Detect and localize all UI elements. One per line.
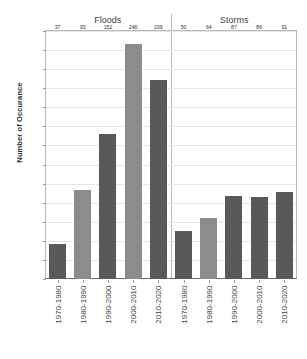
bar-value-label: 91 bbox=[281, 24, 287, 31]
bar-value-label: 246 bbox=[129, 24, 138, 31]
x-tick-mark bbox=[209, 280, 210, 283]
bar-value-label: 87 bbox=[231, 24, 237, 31]
x-tick-mark bbox=[133, 280, 134, 283]
bar-slot: 246 bbox=[125, 31, 142, 279]
bar-value-label: 64 bbox=[206, 24, 212, 31]
x-tick-label: 1970-1980 bbox=[53, 286, 62, 344]
bar[interactable]: 93 bbox=[74, 190, 91, 279]
x-tick-label: 1980-1990 bbox=[78, 286, 87, 344]
x-tick-mark bbox=[259, 280, 260, 283]
bar[interactable]: 209 bbox=[150, 80, 167, 279]
bar-slot: 87 bbox=[225, 31, 242, 279]
bar[interactable]: 37 bbox=[49, 244, 66, 279]
x-label-slot: 1990-2000 bbox=[225, 280, 242, 346]
bar-slot: 209 bbox=[150, 31, 167, 279]
x-label-slot: 2010-2020 bbox=[276, 280, 293, 346]
bar[interactable]: 246 bbox=[125, 44, 142, 279]
bar-value-label: 86 bbox=[256, 24, 262, 31]
x-labels-floods: 1970-19801980-19901990-20002000-20102010… bbox=[45, 280, 171, 346]
bar-group-storms: 5064878691 bbox=[171, 31, 297, 279]
bar-slot: 37 bbox=[49, 31, 66, 279]
bar-group-floods: 3793152246209 bbox=[45, 31, 171, 279]
bar[interactable]: 86 bbox=[251, 197, 268, 279]
x-label-slot: 1980-1990 bbox=[200, 280, 217, 346]
x-tick-mark bbox=[108, 280, 109, 283]
x-tick-label: 2000-2010 bbox=[255, 286, 264, 344]
bar-slot: 91 bbox=[276, 31, 293, 279]
bar[interactable]: 152 bbox=[99, 134, 116, 279]
bar-slot: 86 bbox=[251, 31, 268, 279]
x-tick-mark bbox=[83, 280, 84, 283]
bar-slot: 50 bbox=[175, 31, 192, 279]
y-axis-title: Number of Occurance bbox=[15, 58, 24, 188]
x-tick-label: 2000-2010 bbox=[129, 286, 138, 344]
x-label-slot: 1980-1990 bbox=[74, 280, 91, 346]
bar-chart: Number of Occurance Floods Storms 020406… bbox=[0, 0, 307, 359]
bar-slot: 93 bbox=[74, 31, 91, 279]
bar-value-label: 209 bbox=[154, 24, 163, 31]
x-tick-mark bbox=[158, 280, 159, 283]
x-label-slot: 1990-2000 bbox=[99, 280, 116, 346]
bar-slot: 152 bbox=[99, 31, 116, 279]
x-label-slot: 2000-2010 bbox=[125, 280, 142, 346]
bar-value-label: 50 bbox=[181, 24, 187, 31]
x-tick-label: 2010-2020 bbox=[280, 286, 289, 344]
bar[interactable]: 50 bbox=[175, 231, 192, 279]
bar-value-label: 37 bbox=[55, 24, 61, 31]
x-labels-storms: 1970-19801980-19901990-20002000-20102010… bbox=[171, 280, 297, 346]
x-tick-label: 2010-2020 bbox=[154, 286, 163, 344]
bar-value-label: 152 bbox=[104, 24, 113, 31]
bar[interactable]: 91 bbox=[276, 192, 293, 279]
x-tick-mark bbox=[184, 280, 185, 283]
x-axis-labels: 1970-19801980-19901990-20002000-20102010… bbox=[45, 280, 297, 346]
x-tick-label: 1980-1990 bbox=[204, 286, 213, 344]
bar[interactable]: 87 bbox=[225, 196, 242, 279]
x-label-slot: 2010-2020 bbox=[150, 280, 167, 346]
x-label-slot: 1970-1980 bbox=[175, 280, 192, 346]
x-tick-label: 1990-2000 bbox=[103, 286, 112, 344]
bar-slot: 64 bbox=[200, 31, 217, 279]
x-tick-label: 1970-1980 bbox=[179, 286, 188, 344]
x-tick-label: 1990-2000 bbox=[229, 286, 238, 344]
bar[interactable]: 64 bbox=[200, 218, 217, 279]
x-label-slot: 1970-1980 bbox=[49, 280, 66, 346]
bar-value-label: 93 bbox=[80, 24, 86, 31]
x-tick-mark bbox=[58, 280, 59, 283]
x-tick-mark bbox=[284, 280, 285, 283]
x-label-slot: 2000-2010 bbox=[251, 280, 268, 346]
bars-layer: 3793152246209 5064878691 bbox=[45, 31, 297, 279]
x-tick-mark bbox=[234, 280, 235, 283]
